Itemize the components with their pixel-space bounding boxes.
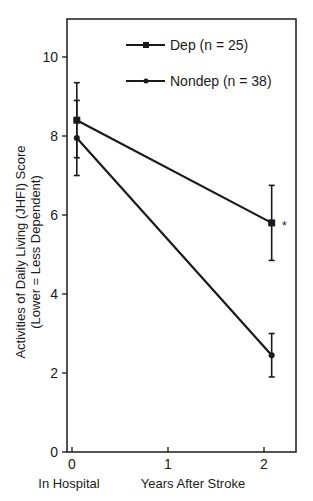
legend: Dep (n = 25)Nondep (n = 38) [126, 37, 272, 89]
x-axis-sublabel: In Hospital [38, 476, 100, 491]
marker-dot [74, 135, 80, 141]
y-tick-label: 0 [50, 444, 58, 460]
x-tick-label: 1 [164, 456, 172, 472]
y-tick-label: 4 [50, 286, 58, 302]
marker-square [268, 219, 275, 226]
marker-dot [269, 352, 275, 358]
legend-marker-dot [144, 79, 149, 84]
x-tick-label: 0 [68, 456, 76, 472]
x-tick-label: 2 [260, 456, 268, 472]
y-axis: 0246810 [42, 49, 67, 460]
legend-label: Dep (n = 25) [170, 37, 248, 53]
y-axis-sublabel: (Lower = Less Dependent) [28, 175, 43, 329]
y-tick-label: 8 [50, 128, 58, 144]
legend-marker-square [143, 42, 149, 48]
x-axis: 012 [68, 447, 268, 472]
significance-annotation: * [282, 219, 287, 233]
y-tick-label: 10 [42, 49, 58, 65]
chart: 0246810 012 Dep (n = 25)Nondep (n = 38) … [0, 0, 313, 501]
x-axis-label: Years After Stroke [141, 476, 245, 491]
series [73, 83, 275, 377]
y-tick-label: 2 [50, 365, 58, 381]
y-tick-label: 6 [50, 207, 58, 223]
y-axis-label: Activities of Daily Living (JHFI) Score [13, 145, 28, 358]
legend-label: Nondep (n = 38) [170, 73, 272, 89]
